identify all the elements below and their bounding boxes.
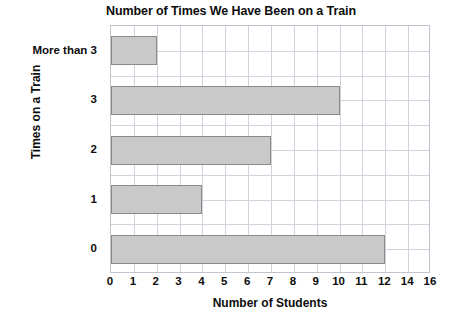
- y-axis-tick-label: 0: [91, 242, 97, 254]
- x-axis-tick-label: 3: [175, 275, 181, 287]
- bar: [111, 185, 202, 214]
- x-axis-tick-label: 6: [244, 275, 250, 287]
- y-axis-tick-label: More than 3: [32, 44, 97, 56]
- bar-chart: Number of Times We Have Been on a Train …: [0, 0, 462, 319]
- x-axis-tick-label: 4: [198, 275, 204, 287]
- y-axis-tick-label: 2: [91, 143, 97, 155]
- x-axis-tick-label: 12: [378, 275, 391, 287]
- x-axis-tick-label: 14: [401, 275, 414, 287]
- x-axis-tick-label: 9: [313, 275, 319, 287]
- y-axis-tick-labels: More than 33210: [0, 25, 105, 273]
- x-axis-tick-label: 7: [267, 275, 273, 287]
- x-axis-tick-label: 2: [153, 275, 159, 287]
- x-axis-tick-label: 1: [130, 275, 136, 287]
- bars-layer: [111, 26, 429, 272]
- y-axis-tick-label: 1: [91, 193, 97, 205]
- x-axis-tick-label: 16: [424, 275, 437, 287]
- bar: [111, 235, 385, 264]
- bar: [111, 136, 271, 165]
- x-axis-tick-label: 0: [107, 275, 113, 287]
- x-axis-tick-label: 11: [355, 275, 367, 287]
- y-axis-tick-label: 3: [91, 93, 97, 105]
- x-axis-title: Number of Students: [110, 296, 430, 310]
- bar: [111, 86, 340, 115]
- x-axis-tick-label: 8: [290, 275, 296, 287]
- bar: [111, 36, 157, 65]
- x-axis-tick-labels: 01234567891011121416: [110, 275, 430, 291]
- chart-title: Number of Times We Have Been on a Train: [0, 4, 462, 18]
- plot-area: [110, 25, 430, 273]
- x-axis-tick-label: 5: [221, 275, 227, 287]
- x-axis-tick-label: 10: [332, 275, 345, 287]
